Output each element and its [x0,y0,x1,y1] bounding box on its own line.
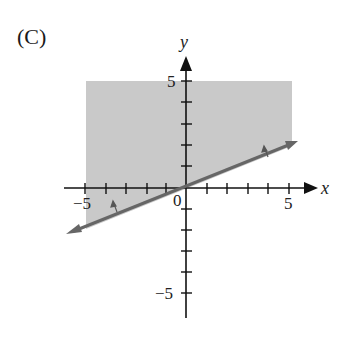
origin-label: 0 [173,191,182,210]
y-tick-label-5: 5 [167,72,176,91]
y-axis-arrow-icon [180,56,192,71]
boundary-arrow-left-icon [66,224,82,234]
x-axis-arrow-icon [304,182,318,194]
y-tick-label-neg5: −5 [155,284,173,303]
inequality-graph: x y −5 5 0 5 −5 [0,0,351,340]
x-axis-label: x [320,178,329,198]
y-axis-label: y [178,32,188,52]
x-tick-label-5: 5 [284,194,293,213]
boundary-arrow-right-icon [285,141,298,150]
x-tick-label-neg5: −5 [73,194,91,213]
